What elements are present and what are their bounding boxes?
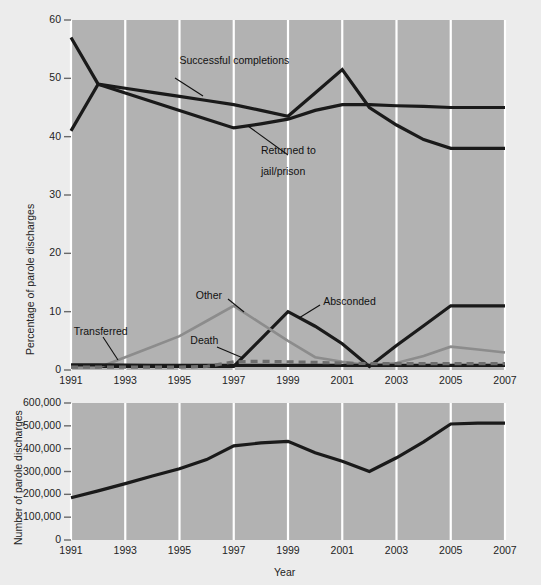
y-tick-label-percentage: 30 xyxy=(49,188,61,200)
annotation-leader-line xyxy=(103,337,118,360)
y-tick-label-percentage: 10 xyxy=(49,305,61,317)
gridlines-number xyxy=(71,403,505,540)
y-tick-label-number: 500,000 xyxy=(23,419,61,431)
x-tick-label-number: 1995 xyxy=(150,544,210,556)
x-tick-label-percentage: 2005 xyxy=(421,374,481,386)
x-tick-label-percentage: 1997 xyxy=(204,374,264,386)
x-tick-label-percentage: 1995 xyxy=(150,374,210,386)
y-tick-label-number: 100,000 xyxy=(23,510,61,522)
y-tick-label-number: 300,000 xyxy=(23,465,61,477)
x-tick-label-percentage: 2001 xyxy=(312,374,372,386)
annotation-leader-line xyxy=(299,305,320,318)
series-annotation: Other xyxy=(196,289,222,301)
chart-vector-overlay xyxy=(0,0,541,585)
series-annotation: Returned to xyxy=(261,144,316,156)
y-tick-label-percentage: 50 xyxy=(49,71,61,83)
x-tick-label-number: 1999 xyxy=(258,544,318,556)
gridlines-percentage xyxy=(71,20,505,370)
y-tick-label-percentage: 40 xyxy=(49,130,61,142)
y-tick-label-percentage: 60 xyxy=(49,13,61,25)
x-tick-label-number: 2001 xyxy=(312,544,372,556)
series-annotation: Absconded xyxy=(323,295,376,307)
x-tick-label-percentage: 2007 xyxy=(475,374,535,386)
x-tick-label-number: 2007 xyxy=(475,544,535,556)
x-axis-title-year: Year xyxy=(274,566,295,578)
figure-container: Percentage of parole discharges Number o… xyxy=(0,0,541,585)
y-tick-label-number: 400,000 xyxy=(23,442,61,454)
series-annotation: Transferred xyxy=(74,325,128,337)
series-annotation: Successful completions xyxy=(180,54,290,66)
y-axis-title-percentage: Percentage of parole discharges xyxy=(24,204,36,355)
x-tick-label-number: 2005 xyxy=(421,544,481,556)
y-tick-label-number: 200,000 xyxy=(23,487,61,499)
y-tick-label-number: 600,000 xyxy=(23,396,61,408)
x-tick-label-percentage: 1993 xyxy=(95,374,155,386)
x-tick-label-number: 1993 xyxy=(95,544,155,556)
y-tick-label-percentage: 20 xyxy=(49,246,61,258)
series-annotation: jail/prison xyxy=(261,165,305,177)
x-tick-label-number: 1991 xyxy=(41,544,101,556)
series-line xyxy=(71,365,505,366)
series-annotation: Death xyxy=(190,334,218,346)
x-tick-label-number: 1997 xyxy=(204,544,264,556)
x-tick-label-percentage: 2003 xyxy=(367,374,427,386)
x-tick-label-number: 2003 xyxy=(367,544,427,556)
x-tick-label-percentage: 1999 xyxy=(258,374,318,386)
x-tick-label-percentage: 1991 xyxy=(41,374,101,386)
annotation-leader-line xyxy=(217,347,243,358)
annotation-leader-line xyxy=(228,299,244,312)
